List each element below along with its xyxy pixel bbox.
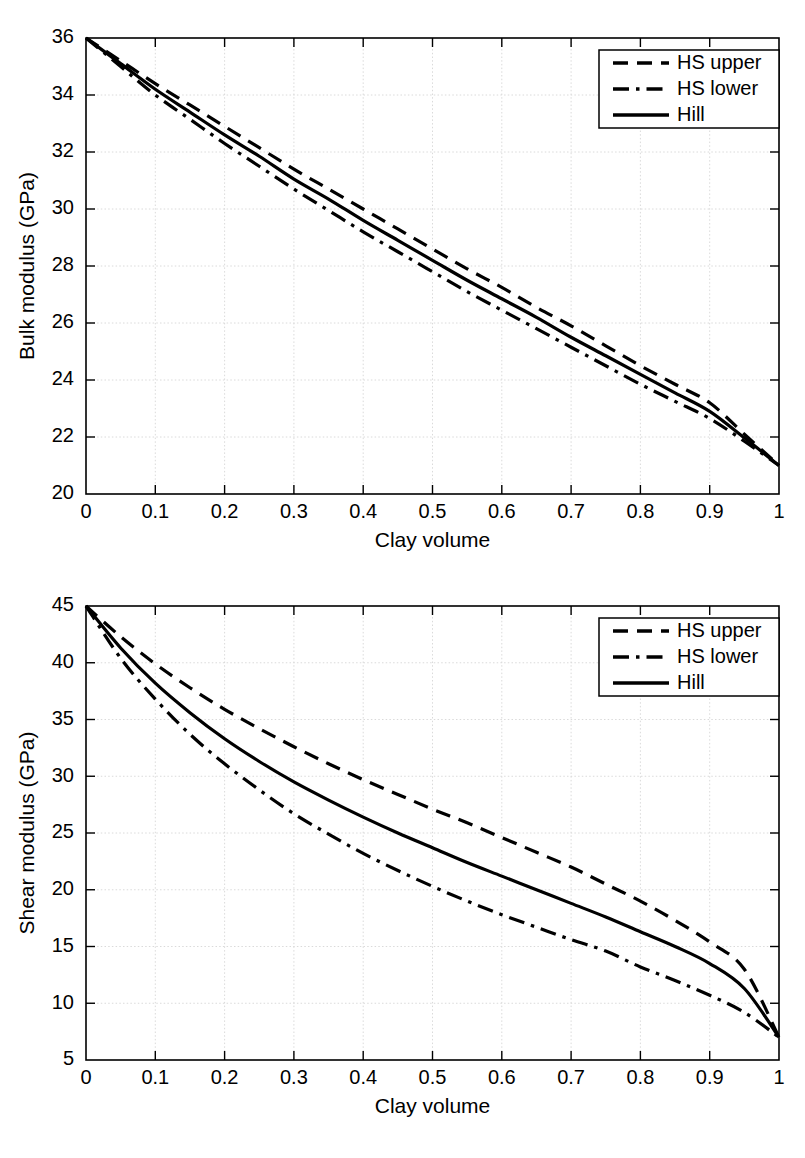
y-tick-label: 10 [52, 991, 74, 1013]
x-tick-label: 0.2 [211, 1066, 239, 1088]
y-tick-label: 30 [52, 196, 74, 218]
y-tick-label: 5 [63, 1047, 74, 1069]
legend-label-hs-lower: HS lower [677, 645, 758, 667]
x-tick-label: 1 [773, 1066, 784, 1088]
bulk-modulus-panel: 20222426283032343600.10.20.30.40.50.60.7… [0, 0, 805, 565]
x-axis-title: Clay volume [375, 528, 491, 551]
y-tick-label: 22 [52, 424, 74, 446]
x-tick-label: 0.7 [557, 1066, 585, 1088]
x-tick-label: 0.5 [419, 500, 447, 522]
legend-label-hs-upper: HS upper [677, 619, 762, 641]
x-tick-label: 0.9 [696, 1066, 724, 1088]
x-tick-label: 0.6 [488, 1066, 516, 1088]
legend-label-hs-lower: HS lower [677, 77, 758, 99]
y-tick-label: 30 [52, 764, 74, 786]
y-tick-label: 28 [52, 253, 74, 275]
y-tick-label: 25 [52, 820, 74, 842]
y-tick-label: 32 [52, 139, 74, 161]
x-tick-label: 0.4 [349, 1066, 377, 1088]
x-tick-label: 0 [80, 1066, 91, 1088]
x-tick-label: 0.3 [280, 500, 308, 522]
legend: HS upperHS lowerHill [599, 618, 779, 696]
x-tick-label: 0.9 [696, 500, 724, 522]
legend-label-hill: Hill [677, 671, 705, 693]
x-tick-label: 0.4 [349, 500, 377, 522]
x-tick-label: 0 [80, 500, 91, 522]
y-tick-label: 40 [52, 650, 74, 672]
shear-modulus-panel: 5101520253035404500.10.20.30.40.50.60.70… [0, 565, 805, 1158]
x-tick-label: 0.1 [141, 1066, 169, 1088]
legend-label-hs-upper: HS upper [677, 51, 762, 73]
x-tick-label: 0.7 [557, 500, 585, 522]
y-tick-label: 26 [52, 310, 74, 332]
x-tick-label: 0.8 [626, 500, 654, 522]
x-tick-label: 0.8 [626, 1066, 654, 1088]
y-tick-label: 36 [52, 25, 74, 47]
x-tick-label: 0.3 [280, 1066, 308, 1088]
y-tick-label: 24 [52, 367, 74, 389]
x-tick-label: 0.5 [419, 1066, 447, 1088]
y-axis-title: Bulk modulus (GPa) [15, 172, 38, 360]
x-tick-label: 0.6 [488, 500, 516, 522]
x-tick-label: 1 [773, 500, 784, 522]
y-tick-label: 45 [52, 593, 74, 615]
y-tick-label: 15 [52, 934, 74, 956]
y-axis-title: Shear modulus (GPa) [15, 731, 38, 934]
bulk-modulus-chart: 20222426283032343600.10.20.30.40.50.60.7… [0, 0, 805, 565]
legend: HS upperHS lowerHill [599, 50, 779, 128]
legend-label-hill: Hill [677, 103, 705, 125]
y-tick-label: 35 [52, 707, 74, 729]
x-axis-title: Clay volume [375, 1094, 491, 1117]
y-tick-label: 20 [52, 481, 74, 503]
x-tick-label: 0.1 [141, 500, 169, 522]
y-tick-label: 20 [52, 877, 74, 899]
y-tick-label: 34 [52, 82, 74, 104]
x-tick-label: 0.2 [211, 500, 239, 522]
figure-container: 20222426283032343600.10.20.30.40.50.60.7… [0, 0, 805, 1158]
shear-modulus-chart: 5101520253035404500.10.20.30.40.50.60.70… [0, 565, 805, 1158]
